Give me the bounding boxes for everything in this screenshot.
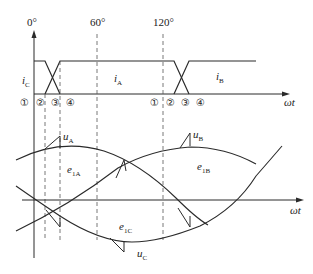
bc-crossover-notch bbox=[178, 208, 190, 227]
e1c-waveform bbox=[16, 146, 282, 242]
ub-label: uB bbox=[193, 128, 204, 143]
angle-label-0: 0° bbox=[27, 16, 37, 28]
uc-label: uC bbox=[137, 247, 148, 262]
e1b-waveform bbox=[16, 147, 256, 231]
interval-marker-2b: ② bbox=[166, 97, 175, 108]
angle-label-120: 120° bbox=[153, 16, 174, 28]
commutation-diagram: 0° 60° 120° iC iA iB ① ② ③ ④ ① ② ③ ④ ωt … bbox=[0, 0, 313, 274]
ub-notch bbox=[180, 133, 190, 148]
e1c-label: e1C bbox=[119, 220, 132, 235]
upper-omega-t-label: ωt bbox=[284, 96, 296, 108]
interval-marker-2a: ② bbox=[36, 97, 45, 108]
e1a-label: e1A bbox=[67, 163, 80, 178]
interval-marker-3a: ③ bbox=[51, 97, 60, 108]
ua-label: uA bbox=[63, 130, 74, 145]
interval-marker-4a: ④ bbox=[66, 97, 75, 108]
ib-label: iB bbox=[216, 70, 224, 85]
interval-marker-4b: ④ bbox=[196, 97, 205, 108]
angle-label-60: 60° bbox=[90, 16, 105, 28]
arrow-right-icon bbox=[296, 198, 304, 203]
arrow-up-icon bbox=[32, 30, 37, 38]
lower-omega-t-label: ωt bbox=[290, 204, 302, 216]
interval-marker-1a: ① bbox=[20, 97, 29, 108]
ia-label: iA bbox=[114, 72, 122, 87]
ca-crossover-notch bbox=[46, 210, 60, 227]
e1b-label: e1B bbox=[197, 160, 210, 175]
interval-marker-3b: ③ bbox=[181, 97, 190, 108]
ic-label: iC bbox=[22, 74, 30, 89]
interval-marker-1b: ① bbox=[150, 97, 159, 108]
